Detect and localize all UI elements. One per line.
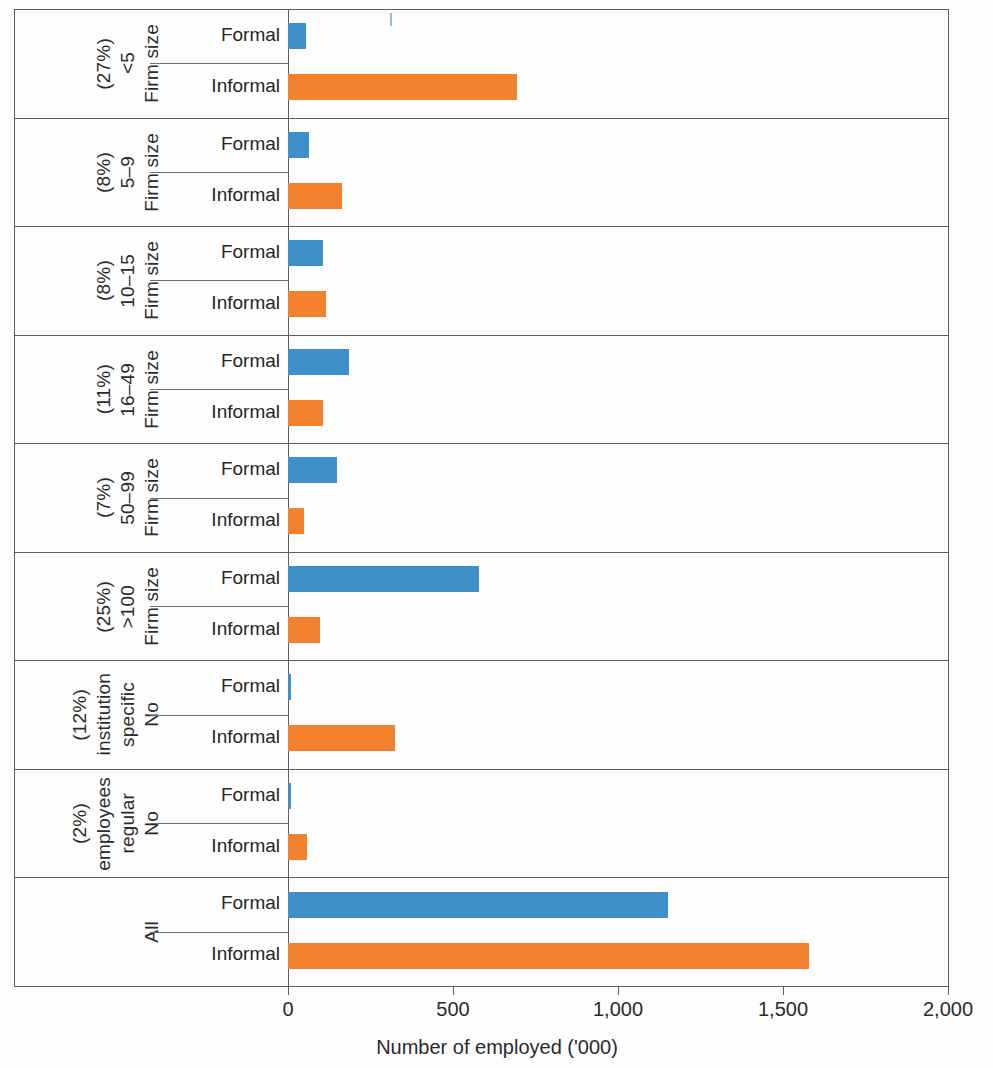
bar-informal-firm-size-50-99 (288, 508, 304, 534)
x-axis-tick (288, 986, 289, 995)
informal-row-label: Informal (211, 292, 280, 314)
group-label-part: (12%) (70, 689, 90, 741)
bar-formal-firm-size-5-9 (288, 132, 309, 158)
bar-formal-all (288, 892, 668, 918)
group-label-stack: All (14, 877, 162, 986)
group-label-stack: Firm size16–49(11%) (14, 335, 162, 444)
group-label-part: (11%) (94, 364, 114, 414)
formal-row-label: Formal (221, 133, 280, 155)
subrow-divider (150, 498, 288, 499)
subrow-divider (150, 63, 288, 64)
formal-row-label: Formal (221, 24, 280, 46)
bar-informal-no-regular-employees (288, 834, 307, 860)
x-axis-tick (948, 986, 949, 995)
group-label-part: institution (94, 673, 114, 755)
formal-row-label: Formal (221, 350, 280, 372)
bar-formal-firm-size-16-49 (288, 349, 349, 375)
formal-row-label: Formal (221, 675, 280, 697)
subrow-divider (150, 606, 288, 607)
group-label-part: (25%) (94, 581, 114, 633)
formal-row-label: Formal (221, 241, 280, 263)
x-axis-tick (618, 986, 619, 995)
informal-row-label: Informal (211, 75, 280, 97)
formal-row-label: Formal (221, 892, 280, 914)
group-label-part: employees (94, 777, 114, 871)
group-label-part: 16–49 (118, 363, 138, 417)
x-axis-tick (453, 986, 454, 995)
subrow-divider (150, 823, 288, 824)
bar-informal-firm-size-gt100 (288, 617, 320, 643)
subrow-divider (150, 932, 288, 933)
informal-row-label: Informal (211, 726, 280, 748)
subrow-divider (150, 172, 288, 173)
group-label-part: <5 (118, 52, 138, 74)
group-label-part: (27%) (94, 38, 114, 90)
subrow-divider (150, 715, 288, 716)
group-label-part: 10–15 (118, 254, 138, 308)
informal-row-label: Informal (211, 184, 280, 206)
group-label-stack: Firm size5–9(8%) (14, 118, 162, 227)
bar-formal-firm-size-50-99 (288, 457, 337, 483)
group-label-stack: Firm size>100(25%) (14, 552, 162, 661)
group-label-stack: Nospecificinstitution(12%) (14, 660, 162, 769)
group-label-stack: Noregularemployees(2%) (14, 769, 162, 878)
group-label-stack: Firm size10–15(8%) (14, 226, 162, 335)
group-label-part: (8%) (94, 260, 114, 301)
group-label-part: (7%) (94, 477, 114, 518)
group-label-part: regular (118, 793, 138, 854)
formal-row-label: Formal (221, 458, 280, 480)
x-axis-tick-label: 0 (282, 998, 293, 1021)
bar-informal-all (288, 943, 809, 969)
informal-row-label: Informal (211, 618, 280, 640)
x-axis-tick-label: 500 (436, 998, 469, 1021)
bar-formal-firm-size-gt100 (288, 566, 479, 592)
formal-row-label: Formal (221, 784, 280, 806)
bar-informal-firm-size-lt5 (288, 74, 517, 100)
x-axis-tick (783, 986, 784, 995)
stray-print-mark-icon (390, 13, 392, 26)
informal-row-label: Informal (211, 509, 280, 531)
bar-formal-no-regular-employees (288, 783, 291, 809)
formal-row-label: Formal (221, 567, 280, 589)
informal-row-label: Informal (211, 401, 280, 423)
chart-right-border (948, 9, 949, 986)
bar-informal-firm-size-16-49 (288, 400, 323, 426)
x-axis-title: Number of employed ('000) (376, 1036, 618, 1059)
group-label-part: 50–99 (118, 471, 138, 525)
bar-informal-no-specific-institution (288, 725, 395, 751)
group-label-part: 5–9 (118, 156, 138, 188)
group-label-part: (8%) (94, 152, 114, 193)
chart-axis-line (14, 986, 948, 987)
bar-formal-firm-size-lt5 (288, 23, 306, 49)
x-axis-tick-label: 1,000 (593, 998, 643, 1021)
x-axis-tick-label: 2,000 (923, 998, 973, 1021)
informal-row-label: Informal (211, 835, 280, 857)
group-label-part: (2%) (70, 803, 90, 844)
group-label-stack: Firm size50–99(7%) (14, 443, 162, 552)
informal-row-label: Informal (211, 943, 280, 965)
group-label-part: >100 (118, 585, 138, 629)
group-label-stack: Firm size<5(27%) (14, 9, 162, 118)
subrow-divider (150, 389, 288, 390)
x-axis-tick-label: 1,500 (758, 998, 808, 1021)
bar-informal-firm-size-10-15 (288, 291, 326, 317)
group-label-part: specific (118, 682, 138, 747)
bar-chart-figure: Firm size<5(27%)FormalInformalFirm size5… (0, 0, 993, 1068)
bar-formal-no-specific-institution (288, 674, 291, 700)
subrow-divider (150, 280, 288, 281)
bar-formal-firm-size-10-15 (288, 240, 323, 266)
bar-informal-firm-size-5-9 (288, 183, 342, 209)
